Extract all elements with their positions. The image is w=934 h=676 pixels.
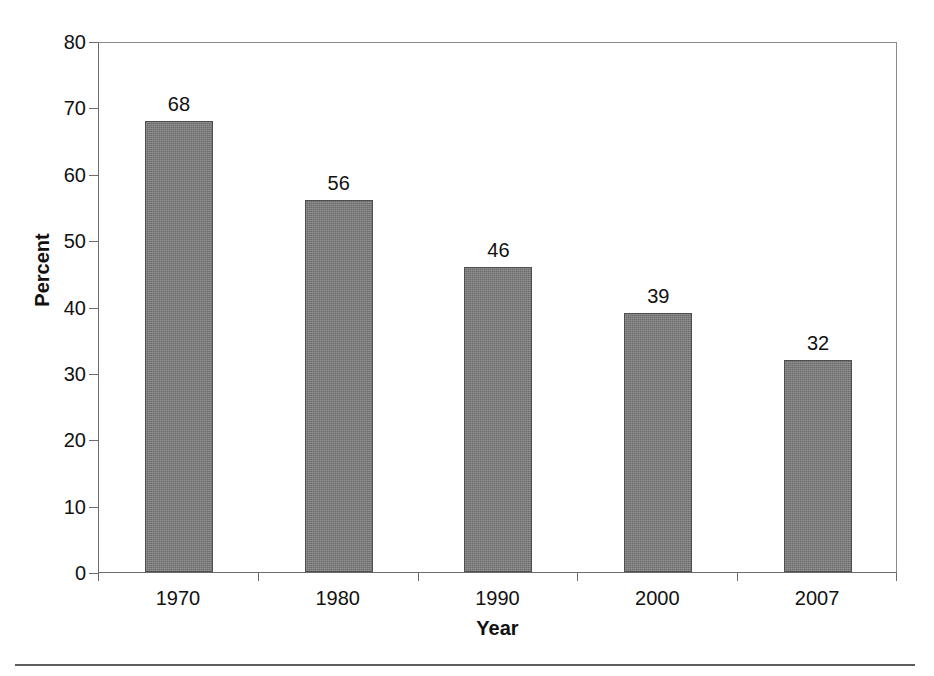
y-tick-mark bbox=[89, 440, 98, 441]
bar bbox=[305, 200, 373, 572]
y-tick-mark bbox=[89, 241, 98, 242]
x-tick-label: 2007 bbox=[737, 587, 897, 610]
y-tick-label: 50 bbox=[64, 228, 86, 254]
y-tick-label: 20 bbox=[64, 427, 86, 453]
y-tick-label: 60 bbox=[64, 162, 86, 188]
y-tick-mark bbox=[89, 175, 98, 176]
bar-value-label: 46 bbox=[487, 239, 509, 261]
y-tick-mark bbox=[89, 108, 98, 109]
bar-value-label: 32 bbox=[807, 332, 829, 354]
plot-area: 6856463932 bbox=[98, 42, 897, 573]
y-tick-label: 70 bbox=[64, 95, 86, 121]
bar bbox=[784, 360, 852, 572]
x-tick-label: 1970 bbox=[98, 587, 258, 610]
x-tick: 1970 bbox=[98, 573, 258, 619]
y-tick-label: 30 bbox=[64, 361, 86, 387]
y-axis-title: Percent bbox=[27, 200, 57, 340]
bar-group: 68 bbox=[99, 43, 259, 572]
bar-group: 56 bbox=[259, 43, 419, 572]
x-tick-label: 1990 bbox=[418, 587, 578, 610]
bar-group: 46 bbox=[419, 43, 579, 572]
bar-value-label: 56 bbox=[328, 172, 350, 194]
bar bbox=[464, 267, 532, 572]
bottom-divider-rule bbox=[15, 664, 915, 666]
y-tick-label: 10 bbox=[64, 494, 86, 520]
bar bbox=[145, 121, 213, 572]
x-tick: 2007 bbox=[737, 573, 897, 619]
y-tick-label: 80 bbox=[64, 29, 86, 55]
x-tick: 2000 bbox=[577, 573, 737, 619]
bar bbox=[624, 313, 692, 572]
y-tick-mark bbox=[89, 308, 98, 309]
bar-chart-figure: 80706050403020100 Percent 6856463932 197… bbox=[0, 0, 934, 676]
bar-value-label: 39 bbox=[647, 285, 669, 307]
y-tick-label: 0 bbox=[75, 560, 86, 586]
y-tick-label: 40 bbox=[64, 295, 86, 321]
y-tick-mark bbox=[89, 573, 98, 574]
x-axis: 19701980199020002007 bbox=[98, 573, 897, 619]
y-tick-mark bbox=[89, 374, 98, 375]
x-tick: 1980 bbox=[258, 573, 418, 619]
bar-value-label: 68 bbox=[168, 93, 190, 115]
x-tick-label: 2000 bbox=[577, 587, 737, 610]
bar-group: 32 bbox=[738, 43, 898, 572]
y-tick-mark bbox=[89, 42, 98, 43]
x-tick-label: 1980 bbox=[258, 587, 418, 610]
y-tick-mark bbox=[89, 507, 98, 508]
x-axis-title: Year bbox=[98, 617, 897, 640]
x-tick: 1990 bbox=[418, 573, 578, 619]
bar-group: 39 bbox=[578, 43, 738, 572]
